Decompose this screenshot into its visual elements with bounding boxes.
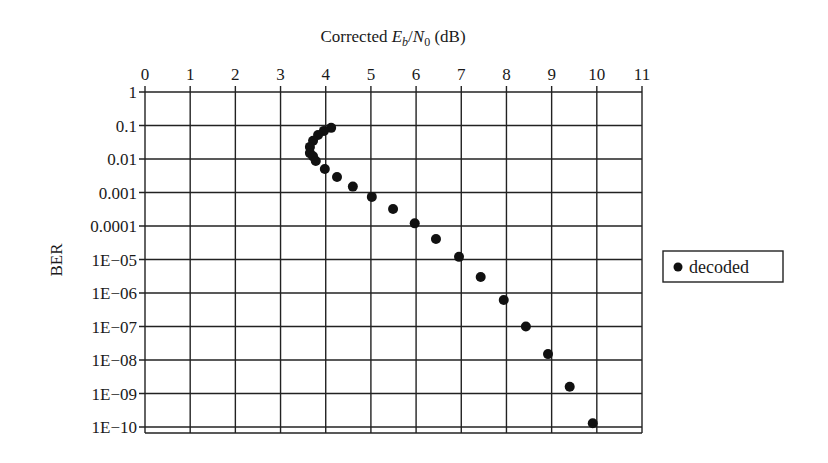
data-point bbox=[320, 164, 330, 174]
x-tick-label: 8 bbox=[502, 65, 511, 84]
data-point bbox=[588, 418, 598, 428]
y-tick-label: 0.0001 bbox=[90, 217, 137, 236]
data-point bbox=[454, 252, 464, 262]
data-point bbox=[410, 218, 420, 228]
x-tick-labels: 01234567891011 bbox=[141, 65, 650, 84]
data-point bbox=[348, 182, 358, 192]
data-point bbox=[499, 295, 509, 305]
x-tick-label: 6 bbox=[412, 65, 421, 84]
y-axis-title: BER bbox=[47, 243, 66, 277]
data-point bbox=[388, 204, 398, 214]
y-tick-label: 1E−07 bbox=[92, 318, 138, 337]
x-tick-label: 2 bbox=[231, 65, 240, 84]
y-tick-label: 1E−10 bbox=[92, 418, 137, 437]
x-tick-label: 11 bbox=[634, 65, 650, 84]
x-tick-label: 5 bbox=[367, 65, 376, 84]
x-tick-label: 1 bbox=[186, 65, 195, 84]
legend-label: decoded bbox=[689, 257, 749, 277]
x-tick-label: 10 bbox=[588, 65, 605, 84]
x-axis-title: Corrected Eb/N0 (dB) bbox=[320, 27, 465, 49]
data-points bbox=[305, 123, 598, 428]
data-point bbox=[521, 322, 531, 332]
x-tick-label: 3 bbox=[276, 65, 285, 84]
y-tick-label: 1E−08 bbox=[92, 351, 137, 370]
data-point bbox=[367, 192, 377, 202]
y-tick-label: 1E−09 bbox=[92, 385, 137, 404]
data-point bbox=[431, 234, 441, 244]
y-tick-label: 0.001 bbox=[99, 184, 137, 203]
x-tick-label: 4 bbox=[321, 65, 330, 84]
x-tick-label: 0 bbox=[141, 65, 150, 84]
y-tick-label: 1 bbox=[129, 83, 138, 102]
y-tick-labels: 10.10.010.0010.00011E−051E−061E−071E−081… bbox=[90, 83, 137, 437]
y-tick-label: 1E−05 bbox=[92, 251, 137, 270]
data-point bbox=[476, 272, 486, 282]
legend: decoded bbox=[663, 251, 783, 282]
y-tick-label: 1E−06 bbox=[92, 284, 137, 303]
legend-marker-icon bbox=[674, 263, 683, 272]
data-point bbox=[332, 172, 342, 182]
ber-chart: Corrected Eb/N0 (dB) BER 01234567891011 … bbox=[0, 0, 828, 463]
data-point bbox=[543, 349, 553, 359]
y-tick-label: 0.1 bbox=[116, 117, 137, 136]
data-point bbox=[311, 156, 321, 166]
plot-grid bbox=[139, 86, 642, 433]
y-tick-label: 0.01 bbox=[107, 150, 137, 169]
data-point bbox=[565, 382, 575, 392]
x-tick-label: 7 bbox=[457, 65, 466, 84]
x-tick-label: 9 bbox=[547, 65, 556, 84]
